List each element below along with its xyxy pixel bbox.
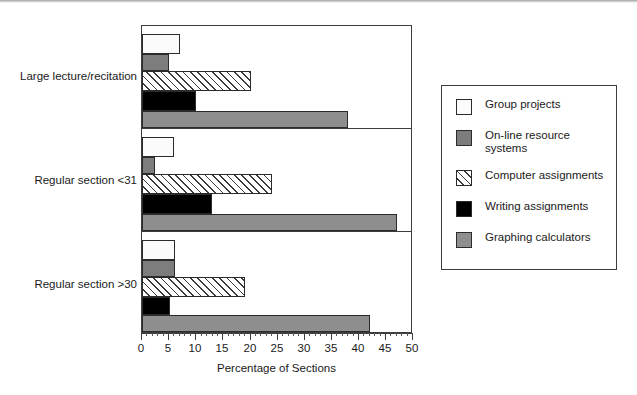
x-minor-tick [353, 333, 354, 336]
legend-label: Writing assignments [485, 200, 588, 213]
x-minor-tick [293, 333, 294, 336]
legend-item-online-resource-systems: On-line resource systems [456, 129, 616, 155]
x-minor-tick [320, 333, 321, 336]
legend-label: Graphing calculators [485, 231, 590, 244]
x-minor-tick [244, 333, 245, 336]
x-minor-tick [228, 333, 229, 336]
x-minor-tick [309, 333, 310, 336]
bar-group-projects [142, 34, 180, 54]
category-axis-labels: Large lecture/recitation Regular section… [0, 0, 137, 395]
x-minor-tick [401, 333, 402, 336]
x-tick-label-35: 35 [325, 342, 338, 354]
x-tick-50 [412, 333, 413, 340]
x-minor-tick [407, 333, 408, 336]
x-minor-tick [396, 333, 397, 336]
x-minor-tick [146, 333, 147, 336]
x-minor-tick [390, 333, 391, 336]
x-minor-tick [201, 333, 202, 336]
x-tick-15 [222, 333, 223, 340]
x-tick-25 [277, 333, 278, 340]
black-swatch-icon [456, 201, 472, 217]
x-tick-label-5: 5 [165, 342, 171, 354]
bar-group-regular-section-over-30 [142, 232, 411, 332]
hatched-swatch-icon [456, 170, 472, 186]
x-tick-45 [385, 333, 386, 340]
bar-online-resource-systems [142, 260, 175, 277]
x-minor-tick [179, 333, 180, 336]
x-minor-tick [315, 333, 316, 336]
legend-item-computer-assignments: Computer assignments [456, 169, 616, 186]
x-minor-tick [206, 333, 207, 336]
category-label-regular-section-under-31: Regular section <31 [1, 174, 137, 186]
bar-computer-assignments [142, 277, 245, 297]
x-minor-tick [282, 333, 283, 336]
legend-label: Group projects [485, 98, 560, 111]
x-minor-tick [363, 333, 364, 336]
x-tick-label-15: 15 [216, 342, 229, 354]
x-minor-tick [347, 333, 348, 336]
bar-writing-assignments [142, 194, 212, 214]
x-tick-label-25: 25 [271, 342, 284, 354]
x-tick-40 [358, 333, 359, 340]
x-tick-label-10: 10 [189, 342, 202, 354]
x-tick-30 [304, 333, 305, 340]
x-minor-tick [163, 333, 164, 336]
x-minor-tick [288, 333, 289, 336]
legend-label: On-line resource systems [485, 129, 570, 155]
x-minor-tick [212, 333, 213, 336]
bar-online-resource-systems [142, 54, 169, 71]
category-label-regular-section-over-30: Regular section >30 [1, 278, 137, 290]
x-minor-tick [369, 333, 370, 336]
legend-item-group-projects: Group projects [456, 98, 616, 115]
bar-graphing-calculators [142, 214, 397, 231]
x-minor-tick [184, 333, 185, 336]
category-label-large-lecture-recitation: Large lecture/recitation [1, 70, 137, 82]
x-tick-label-20: 20 [244, 342, 257, 354]
x-tick-0 [141, 333, 142, 340]
x-tick-35 [331, 333, 332, 340]
chart-legend: Group projects On-line resource systems … [441, 85, 617, 270]
x-minor-tick [217, 333, 218, 336]
x-tick-20 [250, 333, 251, 340]
x-tick-label-50: 50 [406, 342, 419, 354]
x-tick-label-30: 30 [298, 342, 311, 354]
bar-graphing-calculators [142, 111, 348, 128]
plot-area [141, 25, 412, 333]
x-tick-10 [195, 333, 196, 340]
x-minor-tick [190, 333, 191, 336]
x-minor-tick [157, 333, 158, 336]
horizontal-bar-chart: Large lecture/recitation Regular section… [0, 0, 637, 395]
bar-online-resource-systems [142, 157, 155, 174]
bar-group-large-lecture-recitation [142, 26, 411, 128]
bar-writing-assignments [142, 91, 196, 111]
x-minor-tick [326, 333, 327, 336]
x-minor-tick [266, 333, 267, 336]
x-minor-tick [380, 333, 381, 336]
bar-group-projects [142, 240, 175, 260]
x-minor-tick [260, 333, 261, 336]
bar-group-projects [142, 137, 174, 157]
x-minor-tick [173, 333, 174, 336]
x-tick-5 [168, 333, 169, 340]
legend-item-graphing-calculators: Graphing calculators [456, 231, 616, 248]
x-minor-tick [255, 333, 256, 336]
x-tick-label-45: 45 [379, 342, 392, 354]
x-tick-label-40: 40 [352, 342, 365, 354]
white-swatch-icon [456, 99, 472, 115]
x-minor-tick [336, 333, 337, 336]
bar-writing-assignments [142, 297, 170, 315]
bar-computer-assignments [142, 174, 272, 194]
gray-swatch-icon [456, 232, 472, 248]
bar-computer-assignments [142, 71, 251, 91]
legend-label: Computer assignments [485, 169, 603, 182]
x-minor-tick [239, 333, 240, 336]
x-minor-tick [271, 333, 272, 336]
x-minor-tick [152, 333, 153, 336]
bar-graphing-calculators [142, 315, 370, 332]
x-minor-tick [233, 333, 234, 336]
x-minor-tick [298, 333, 299, 336]
x-minor-tick [342, 333, 343, 336]
x-minor-tick [374, 333, 375, 336]
x-axis-title: Percentage of Sections [141, 362, 412, 374]
x-tick-label-0: 0 [138, 342, 144, 354]
